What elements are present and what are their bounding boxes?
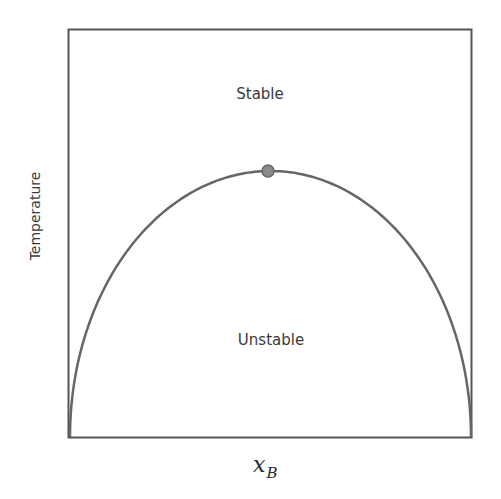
- critical-point-marker: [262, 165, 274, 177]
- phase-diagram: Stable Unstable Temperature xB: [0, 0, 501, 499]
- x-axis-label: xB: [253, 452, 277, 482]
- spinodal-curve: [70, 171, 471, 437]
- region-label-unstable: Unstable: [238, 331, 304, 349]
- y-axis-label: Temperature: [27, 172, 43, 262]
- region-label-stable: Stable: [236, 85, 284, 103]
